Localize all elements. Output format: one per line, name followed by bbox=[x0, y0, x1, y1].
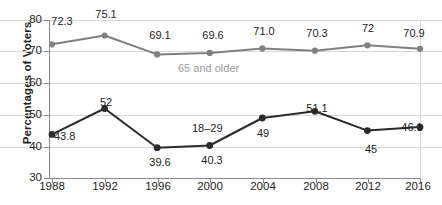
data-label-older-1992: 75.1 bbox=[95, 8, 116, 20]
data-point bbox=[417, 46, 423, 52]
data-point bbox=[49, 41, 55, 47]
data-label-younger-1996: 39.6 bbox=[149, 156, 170, 168]
data-label-older-2004: 71.0 bbox=[253, 25, 274, 37]
data-label-younger-1988: 43.8 bbox=[54, 130, 75, 142]
data-label-older-1988: 72.3 bbox=[51, 15, 72, 27]
data-label-younger-2016: 46.1 bbox=[401, 121, 422, 133]
data-label-older-1996: 69.1 bbox=[149, 29, 170, 41]
data-label-younger-2012: 45 bbox=[365, 143, 377, 155]
data-label-younger-2004: 49 bbox=[257, 127, 269, 139]
data-label-younger-1992: 52 bbox=[100, 96, 112, 108]
data-point bbox=[364, 127, 371, 134]
series-markers-65-and-older bbox=[49, 32, 423, 57]
data-label-older-2012: 72 bbox=[362, 22, 374, 34]
data-label-older-2016: 70.9 bbox=[403, 27, 424, 39]
data-point bbox=[259, 115, 266, 122]
data-point bbox=[102, 32, 108, 38]
data-label-older-2000: 69.6 bbox=[202, 29, 223, 41]
data-label-younger-2008: 51.1 bbox=[306, 102, 327, 114]
data-point bbox=[207, 50, 213, 56]
series-annotation-65-and-older: 65 and older bbox=[178, 62, 239, 74]
data-label-older-2008: 70.3 bbox=[306, 27, 327, 39]
data-point bbox=[206, 142, 213, 149]
series-annotation-18-29: 18–29 bbox=[192, 122, 223, 134]
data-label-younger-2000: 40.3 bbox=[201, 154, 222, 166]
data-point bbox=[154, 51, 160, 57]
data-point bbox=[154, 144, 161, 151]
line-chart: Percentages of Voters 80 70 60 50 40 30 … bbox=[0, 0, 442, 205]
data-point bbox=[259, 45, 265, 51]
series-line-18-29 bbox=[52, 109, 420, 148]
data-point bbox=[312, 48, 318, 54]
data-point bbox=[364, 42, 370, 48]
